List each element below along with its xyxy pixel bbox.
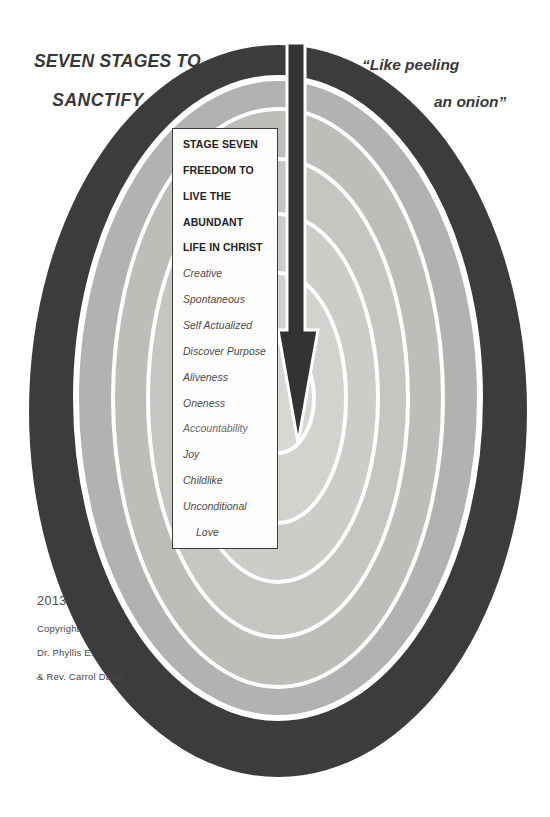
- page-title-line2: SANCTIFY: [34, 90, 162, 111]
- scanned-page: SEVEN STAGES TO SANCTIFY “Like peeling a…: [0, 0, 550, 817]
- stage-seven-textbox: STAGE SEVEN FREEDOM TO LIVE THE ABUNDANT…: [172, 128, 278, 549]
- stage-box-line: LIVE THE: [183, 190, 273, 202]
- copyright-author-2: & Rev. Carrol Davis: [37, 671, 124, 682]
- stage-box-line: FREEDOM TO: [183, 164, 273, 176]
- stage-box-line: Aliveness: [183, 371, 273, 383]
- stage-box-line: Self Actualized: [183, 319, 273, 331]
- stage-box-line: ABUNDANT: [183, 216, 273, 228]
- stage-box-line: Creative: [183, 267, 273, 279]
- stage-box-line: LIFE IN CHRIST: [183, 241, 273, 253]
- copyright-author-1: Dr. Phyllis E.: [37, 647, 94, 658]
- stage-box-line: Accountability: [183, 422, 273, 434]
- stage-box-line: Unconditional: [183, 500, 273, 512]
- copyright-label: Copyright: [37, 623, 79, 634]
- page-title-line1: SEVEN STAGES TO: [34, 51, 192, 72]
- stage-box-line: Spontaneous: [183, 293, 273, 305]
- stage-box-line: Discover Purpose: [183, 345, 273, 357]
- copyright-year: 2013: [37, 594, 67, 608]
- subtitle-quote-line1: “Like peeling: [362, 56, 459, 74]
- stage-box-line: Love: [183, 526, 273, 538]
- stage-box-line: Joy: [183, 448, 273, 460]
- stage-box-line: Childlike: [183, 474, 273, 486]
- stage-box-line: Oneness: [183, 397, 273, 409]
- subtitle-quote-line2: an onion”: [434, 93, 506, 111]
- stage-box-line: STAGE SEVEN: [183, 138, 273, 150]
